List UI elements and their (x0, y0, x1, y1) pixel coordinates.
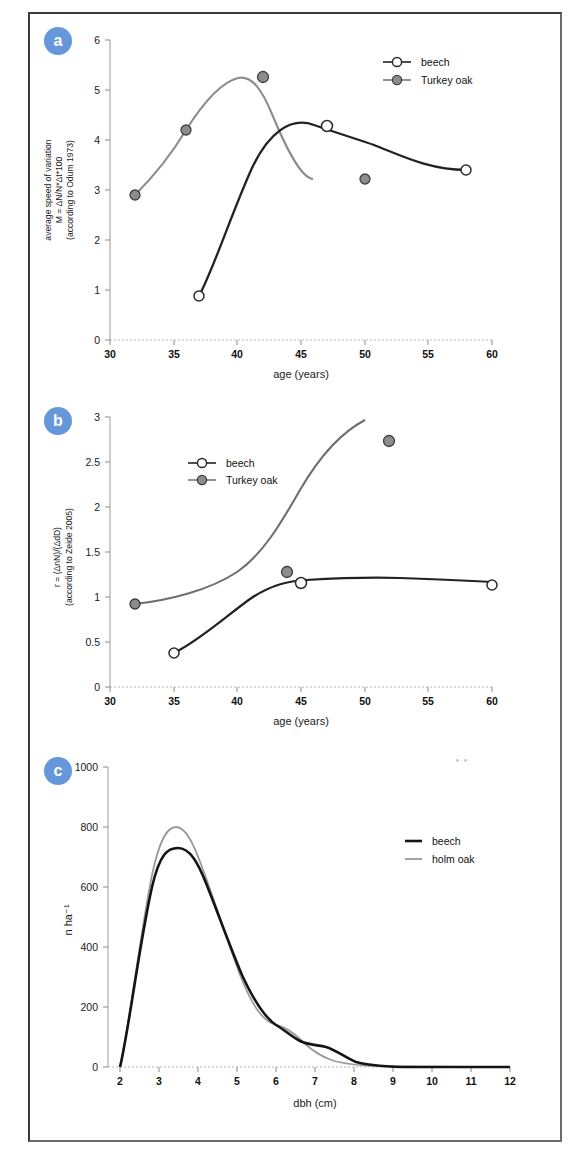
x-tick-c-4: 6 (273, 1075, 279, 1087)
y-tick-b-3: 1.5 (85, 546, 100, 558)
panel-b: b 3 2.5 2 1.5 1 0.5 0 3 (0, 385, 584, 730)
legend-c: beech holm oak (405, 835, 475, 1155)
y-ticks-b: 3 2.5 2 1.5 1 0.5 0 (85, 411, 110, 693)
series-b-beech-markers (169, 578, 497, 659)
series-a-beech-markers (194, 121, 471, 302)
x-tick-c-2: 4 (195, 1075, 201, 1087)
y-tick-b-4: 2 (94, 501, 100, 513)
y-tick-b-2: 1 (94, 591, 100, 603)
legend-a-item-turkey-oak: Turkey oak (383, 74, 473, 86)
x-tick-a-0: 30 (104, 348, 116, 360)
x-tick-a-3: 45 (295, 348, 307, 360)
x-tick-a-2: 40 (231, 348, 243, 360)
y-tick-a-6: 6 (94, 34, 100, 46)
chart-b: 3 2.5 2 1.5 1 0.5 0 30 35 40 45 50 55 60… (0, 385, 584, 730)
x-ticks-c: 2 3 4 5 6 7 8 9 10 11 12 (117, 1067, 516, 1087)
x-ticks-a: 30 35 40 45 50 55 60 (104, 340, 498, 360)
y-tick-a-3: 3 (94, 184, 100, 196)
legend-b-label-beech: beech (226, 457, 255, 469)
series-c-beech-line (120, 848, 510, 1067)
y-tick-a-4: 4 (94, 134, 100, 146)
x-tick-b-0: 30 (104, 695, 116, 707)
x-tick-c-1: 3 (156, 1075, 162, 1087)
x-tick-c-7: 9 (390, 1075, 396, 1087)
x-tick-c-9: 11 (465, 1075, 476, 1087)
x-tick-c-6: 8 (351, 1075, 357, 1087)
y-axis-title-a: average speed of variation M = ΔN/N*Δt*1… (43, 139, 75, 241)
x-tick-c-3: 5 (234, 1075, 240, 1087)
x-ticks-b: 30 35 40 45 50 55 60 (104, 687, 498, 707)
y-ticks-a: 6 5 4 3 2 1 0 (94, 34, 110, 346)
y-axis-title-b-line1: r = (ΔnN)/(ΔdD) (52, 527, 62, 587)
y-axis-title-a-line1: average speed of variation (43, 139, 53, 241)
legend-b-item-turkey-oak: Turkey oak (188, 474, 278, 486)
chart-a: 6 5 4 3 2 1 0 30 35 40 45 50 55 60 age (… (0, 0, 584, 390)
y-tick-b-1: 0.5 (85, 636, 100, 648)
x-tick-b-5: 55 (422, 695, 434, 707)
y-axis-title-c: n ha⁻¹ (62, 904, 74, 935)
y-axis-title-a-line2: M = ΔN/N*Δt*100 (54, 156, 64, 223)
x-tick-a-4: 50 (359, 348, 371, 360)
y-tick-a-0: 0 (94, 334, 100, 346)
x-tick-a-5: 55 (422, 348, 434, 360)
y-tick-b-6: 3 (94, 411, 100, 423)
series-a-turkey-oak-line (135, 78, 313, 195)
legend-a-label-beech: beech (421, 56, 450, 68)
y-tick-a-1: 1 (94, 284, 100, 296)
legend-c-item-holm-oak: holm oak (405, 853, 475, 865)
y-tick-c-3: 600 (80, 881, 98, 893)
panel-a: a 6 5 4 3 2 1 0 (0, 0, 584, 390)
x-axis-title-a: age (years) (273, 368, 329, 380)
x-tick-b-1: 35 (168, 695, 180, 707)
y-tick-c-2: 400 (80, 941, 98, 953)
y-tick-c-1: 200 (80, 1001, 98, 1013)
legend-a: beech Turkey oak (383, 56, 473, 86)
legend-a-item-beech: beech (383, 56, 450, 68)
legend-b-item-beech: beech (188, 457, 255, 469)
x-tick-a-6: 60 (486, 348, 498, 360)
x-tick-c-0: 2 (117, 1075, 123, 1087)
y-tick-b-5: 2.5 (85, 456, 100, 468)
y-tick-a-5: 5 (94, 84, 100, 96)
y-tick-c-0: 0 (92, 1061, 98, 1073)
x-axis-title-c: dbh (cm) (293, 1097, 336, 1109)
y-tick-a-2: 2 (94, 234, 100, 246)
y-tick-c-4: 800 (80, 821, 98, 833)
y-axis-title-c-line1: n ha⁻¹ (62, 904, 74, 935)
x-tick-a-1: 35 (168, 348, 180, 360)
legend-a-label-turkey-oak: Turkey oak (421, 74, 473, 86)
series-b-turkey-oak-line (135, 420, 365, 604)
legend-c-label-beech: beech (432, 835, 461, 847)
x-tick-c-10: 12 (504, 1075, 516, 1087)
y-tick-b-0: 0 (94, 681, 100, 693)
x-tick-b-4: 50 (359, 695, 371, 707)
series-b-turkey-oak-markers (130, 436, 395, 610)
x-axis-title-b: age (years) (273, 715, 329, 727)
panel-badge-c: c (44, 757, 72, 785)
x-tick-b-3: 45 (295, 695, 307, 707)
panel-badge-b: b (44, 407, 72, 435)
legend-b-label-turkey-oak: Turkey oak (226, 474, 278, 486)
series-b-beech-line (174, 578, 492, 653)
legend-c-item-beech: beech (405, 835, 461, 1155)
y-ticks-c: 1000 800 600 400 200 0 (75, 761, 108, 1073)
panel-c: c ٭ ٭ 1000 800 600 400 200 0 (0, 735, 584, 1155)
x-tick-c-8: 10 (426, 1075, 438, 1087)
y-axis-title-a-line3: (according to Odum 1973) (65, 140, 75, 240)
legend-c-label-holm-oak: holm oak (432, 853, 475, 865)
x-tick-b-6: 60 (486, 695, 498, 707)
series-a-turkey-oak-markers (130, 72, 370, 201)
y-axis-title-b-line2: (according to Zeide 2005) (64, 508, 74, 606)
y-axis-title-b: r = (ΔnN)/(ΔdD) (according to Zeide 2005… (52, 508, 74, 606)
chart-c: 1000 800 600 400 200 0 2 3 4 5 6 7 8 (0, 735, 584, 1155)
legend-b: beech Turkey oak (188, 457, 278, 486)
x-tick-c-5: 7 (312, 1075, 318, 1087)
x-tick-b-2: 40 (231, 695, 243, 707)
panel-badge-a: a (44, 27, 72, 55)
y-tick-c-5: 1000 (75, 761, 99, 773)
series-a-beech-line (199, 123, 466, 296)
